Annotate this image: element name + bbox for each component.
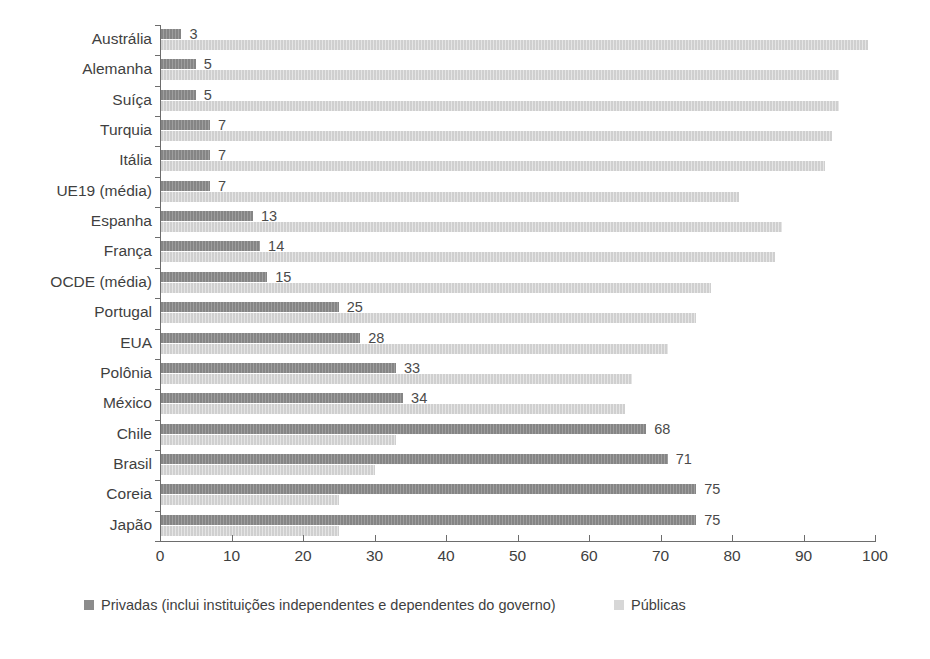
bar-privadas [160,211,253,221]
chart-row: 5 [160,86,875,116]
chart-row: 7 [160,116,875,146]
bar-publicas [160,131,832,141]
bar-value-label: 5 [204,88,212,103]
x-tick [160,535,161,541]
bar-publicas [160,222,782,232]
y-tick [155,177,160,178]
x-tick-label: 30 [366,547,383,565]
legend-label-publicas: Públicas [631,596,686,615]
y-tick [155,25,160,26]
x-tick [375,535,376,541]
bar-value-label: 75 [704,513,720,528]
legend-item-privadas: Privadas (inclui instituições independen… [84,596,584,615]
bar-value-label: 68 [654,422,670,437]
y-tick [155,55,160,56]
category-label: EUA [2,335,152,351]
bar-value-label: 75 [704,482,720,497]
category-label: Itália [2,152,152,168]
bar-privadas [160,363,396,373]
category-label: Suíça [2,92,152,108]
y-tick [155,420,160,421]
category-label: OCDE (média) [2,274,152,290]
bar-value-label: 7 [218,148,226,163]
bar-publicas [160,70,839,80]
y-tick [155,237,160,238]
bar-value-label: 15 [275,270,291,285]
chart-row: 33 [160,359,875,389]
bar-publicas [160,161,825,171]
bar-privadas [160,454,668,464]
category-label: Espanha [2,213,152,229]
plot-area: 3557771314152528333468717575 [160,25,875,541]
x-tick-label: 40 [437,547,454,565]
bar-privadas [160,59,196,69]
x-tick [232,535,233,541]
category-label: Coreia [2,486,152,502]
y-tick [155,207,160,208]
chart-row: 3 [160,25,875,55]
y-tick [155,86,160,87]
bar-privadas [160,393,403,403]
y-tick [155,450,160,451]
x-tick-label: 0 [156,547,165,565]
bar-privadas [160,515,696,525]
y-tick [155,389,160,390]
legend-label-privadas: Privadas (inclui instituições independen… [101,596,556,615]
x-tick [589,535,590,541]
x-tick-label: 60 [580,547,597,565]
x-tick [661,535,662,541]
x-tick-label: 70 [652,547,669,565]
y-tick [155,480,160,481]
y-tick [155,116,160,117]
category-label: Brasil [2,456,152,472]
x-tick-label: 100 [862,547,888,565]
x-tick [804,535,805,541]
y-tick [155,268,160,269]
bar-chart: AustráliaAlemanhaSuíçaTurquiaItáliaUE19 … [0,0,930,659]
y-tick [155,329,160,330]
x-axis-tick-labels: 0102030405060708090100 [160,547,876,569]
bar-privadas [160,29,181,39]
bar-publicas [160,101,839,111]
chart-legend: Privadas (inclui instituições independen… [84,596,914,646]
y-axis-ticks [160,25,161,542]
bar-publicas [160,313,696,323]
chart-row: 7 [160,177,875,207]
bar-privadas [160,181,210,191]
bar-value-label: 3 [189,27,197,42]
chart-row: 75 [160,480,875,510]
category-label: Portugal [2,304,152,320]
category-label: França [2,243,152,259]
bar-publicas [160,40,868,50]
x-tick-label: 10 [223,547,240,565]
legend-item-publicas: Públicas [614,596,874,615]
y-tick [155,511,160,512]
legend-swatch-privadas-icon [84,600,94,610]
bar-value-label: 14 [268,239,284,254]
bar-value-label: 71 [676,452,692,467]
x-tick-label: 50 [509,547,526,565]
category-axis-labels: AustráliaAlemanhaSuíçaTurquiaItáliaUE19 … [0,25,152,541]
category-label: México [2,395,152,411]
bar-privadas [160,120,210,130]
bar-value-label: 5 [204,57,212,72]
bar-privadas [160,484,696,494]
bar-value-label: 13 [261,209,277,224]
bar-value-label: 7 [218,118,226,133]
category-label: UE19 (média) [2,183,152,199]
bar-privadas [160,150,210,160]
bar-publicas [160,192,739,202]
bar-privadas [160,272,267,282]
category-label: Turquia [2,122,152,138]
chart-row: 7 [160,146,875,176]
bar-publicas [160,435,396,445]
bar-privadas [160,241,260,251]
chart-row: 28 [160,329,875,359]
x-tick-label: 80 [723,547,740,565]
bar-privadas [160,302,339,312]
bar-privadas [160,90,196,100]
y-tick [155,146,160,147]
bar-value-label: 28 [368,331,384,346]
x-tick [518,535,519,541]
chart-row: 14 [160,237,875,267]
